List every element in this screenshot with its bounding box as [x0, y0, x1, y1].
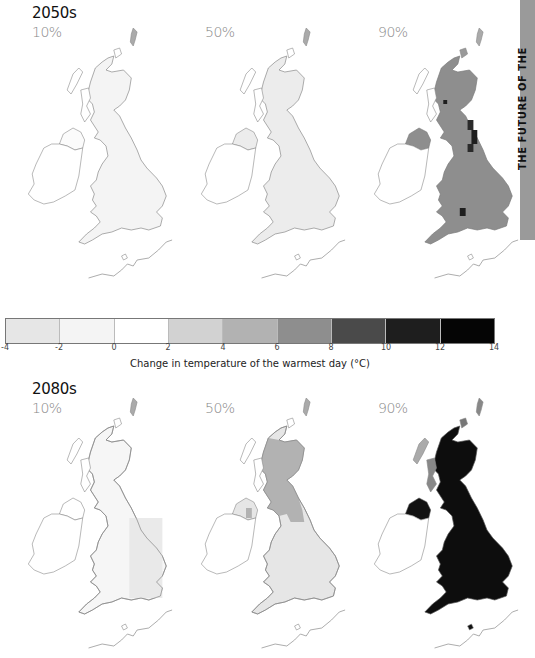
- legend-tick: 14: [489, 343, 499, 352]
- legend-tick: 0: [111, 343, 116, 352]
- legend-swatch: [278, 319, 332, 343]
- legend-swatch: [386, 319, 440, 343]
- period-title-2080s: 2080s: [32, 380, 77, 398]
- legend-ticks: -4 -2 0 2 4 6 8 10 12 14: [5, 343, 495, 357]
- map-2080s-50pct: [178, 398, 348, 658]
- map-2050s-10pct: [5, 28, 175, 288]
- legend-tick: 6: [274, 343, 279, 352]
- legend-swatch: [332, 319, 386, 343]
- map-2050s-90pct: [351, 28, 521, 288]
- legend-swatch: [6, 319, 60, 343]
- legend-tick: 2: [165, 343, 170, 352]
- legend-swatch: [441, 319, 494, 343]
- legend-tick: -4: [1, 343, 9, 352]
- legend-tick: -2: [55, 343, 63, 352]
- map-2080s-90pct: [351, 398, 521, 658]
- legend-swatch: [60, 319, 114, 343]
- legend-tick: 4: [220, 343, 225, 352]
- color-legend: [5, 318, 495, 344]
- legend-swatch: [223, 319, 277, 343]
- legend-tick: 12: [435, 343, 445, 352]
- map-2050s-50pct: [178, 28, 348, 288]
- legend-swatch: [169, 319, 223, 343]
- map-2080s-10pct: [5, 398, 175, 658]
- legend-swatch: [115, 319, 169, 343]
- legend-tick: 10: [381, 343, 391, 352]
- period-title-2050s: 2050s: [32, 4, 77, 22]
- legend-caption: Change in temperature of the warmest day…: [0, 358, 500, 369]
- legend-tick: 8: [328, 343, 333, 352]
